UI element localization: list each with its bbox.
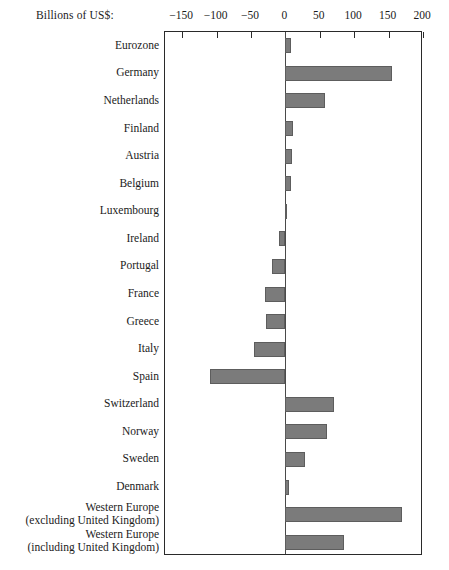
x-axis-tick-label: 0 — [282, 9, 288, 21]
x-axis-tick-label: 50 — [313, 9, 325, 21]
zero-reference-line — [285, 32, 286, 554]
bar-chart-figure: Billions of US$: −150−100−50050100150200… — [0, 0, 449, 570]
bar — [266, 314, 285, 329]
category-label-line: Spain — [133, 369, 159, 381]
category-label-line: Italy — [138, 342, 159, 354]
category-label-line: Greece — [126, 314, 159, 326]
bar — [285, 93, 324, 108]
bar — [285, 507, 402, 522]
bar — [285, 480, 288, 495]
y-axis-category-label: Austria — [0, 149, 159, 162]
x-axis-tick-mark — [320, 32, 321, 38]
category-label-line: France — [128, 287, 159, 299]
x-axis-tick-mark — [389, 32, 390, 38]
x-axis-tick-label: −50 — [241, 9, 259, 21]
category-label-line: Switzerland — [104, 397, 159, 409]
y-axis-category-label: Denmark — [0, 480, 159, 493]
category-label-line: Austria — [125, 149, 159, 161]
x-axis-tick-label: 150 — [379, 9, 396, 21]
category-label-line: Ireland — [126, 231, 159, 243]
bar — [285, 535, 343, 550]
bar — [272, 259, 286, 274]
category-label-line: Denmark — [116, 480, 159, 492]
category-label-line: Germany — [116, 66, 159, 78]
bar — [285, 452, 304, 467]
y-axis-category-label: Germany — [0, 66, 159, 79]
y-axis-category-label: Ireland — [0, 231, 159, 244]
y-axis-category-label: Western Europe(including United Kingdom) — [0, 528, 159, 554]
x-axis-tick-label: −150 — [169, 9, 193, 21]
x-axis-unit-label: Billions of US$: — [36, 9, 114, 21]
bar — [285, 149, 292, 164]
x-axis-tick-mark — [182, 32, 183, 38]
y-axis-category-label: Portugal — [0, 259, 159, 272]
x-axis-tick-mark — [423, 32, 424, 38]
y-axis-category-label: Western Europe(excluding United Kingdom) — [0, 501, 159, 527]
category-label-line: Western Europe — [86, 528, 159, 540]
bar — [285, 38, 291, 53]
y-axis-category-label: Belgium — [0, 176, 159, 189]
category-label-line: Western Europe — [86, 501, 159, 513]
y-axis-category-label: Eurozone — [0, 38, 159, 51]
category-label-line: (excluding United Kingdom) — [0, 514, 159, 527]
category-label-line: Norway — [122, 424, 159, 436]
bar — [285, 424, 326, 439]
y-axis-category-label: Spain — [0, 369, 159, 382]
y-axis-category-label: Netherlands — [0, 93, 159, 106]
bar — [285, 176, 291, 191]
category-label-line: Finland — [124, 121, 159, 133]
y-axis-category-label: Switzerland — [0, 397, 159, 410]
bar — [285, 397, 333, 412]
y-axis-category-label: Greece — [0, 314, 159, 327]
category-label-line: Netherlands — [103, 93, 159, 105]
category-label-line: Eurozone — [115, 38, 159, 50]
x-axis-tick-mark — [217, 32, 218, 38]
bar — [285, 204, 287, 219]
bar — [265, 287, 286, 302]
category-label-line: Belgium — [119, 176, 159, 188]
bar — [254, 342, 285, 357]
plot-area — [164, 31, 422, 555]
y-axis-category-label: Italy — [0, 342, 159, 355]
y-axis-category-label: Finland — [0, 121, 159, 134]
y-axis-category-label: France — [0, 287, 159, 300]
category-label-line: (including United Kingdom) — [0, 541, 159, 554]
x-axis-tick-mark — [251, 32, 252, 38]
bar — [285, 66, 392, 81]
category-label-line: Portugal — [120, 259, 159, 271]
x-axis-tick-label: −100 — [204, 9, 228, 21]
y-axis-category-label: Luxembourg — [0, 204, 159, 217]
x-axis-tick-mark — [354, 32, 355, 38]
x-axis-tick-label: 100 — [345, 9, 362, 21]
bar — [285, 121, 293, 136]
y-axis-category-label: Norway — [0, 424, 159, 437]
bar — [210, 369, 286, 384]
category-label-line: Luxembourg — [100, 204, 159, 216]
category-label-line: Sweden — [123, 452, 159, 464]
plot-inner — [165, 32, 421, 554]
bar — [279, 231, 286, 246]
x-axis-tick-label: 200 — [413, 9, 430, 21]
y-axis-category-label: Sweden — [0, 452, 159, 465]
